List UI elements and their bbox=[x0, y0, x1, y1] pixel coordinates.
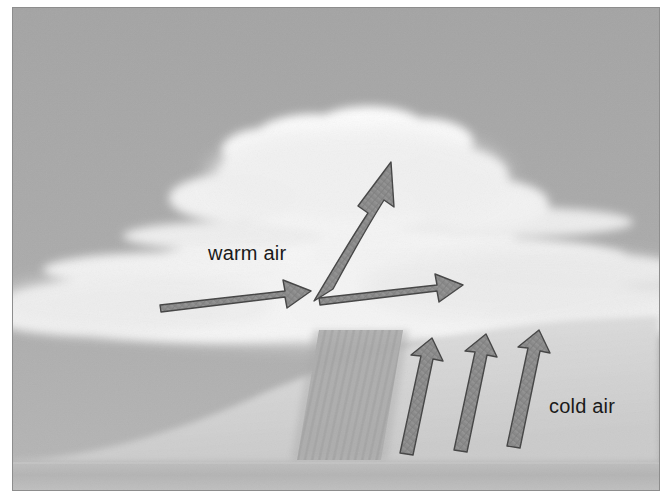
grain-overlay bbox=[13, 8, 659, 490]
cold-air-label: cold air bbox=[549, 396, 615, 416]
scene-canvas bbox=[13, 8, 659, 490]
warm-air-label: warm air bbox=[208, 243, 286, 263]
weather-diagram-figure: warm air cold air bbox=[0, 0, 672, 500]
illustration-plate: warm air cold air bbox=[12, 7, 660, 491]
